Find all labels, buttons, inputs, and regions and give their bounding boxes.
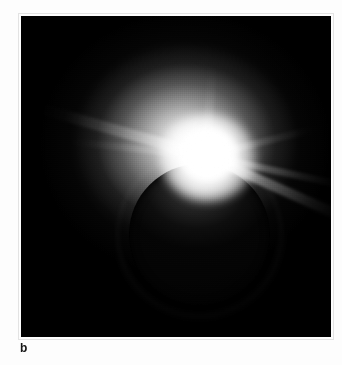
panel-label: b <box>20 341 27 355</box>
eclipse-photograph <box>21 16 331 337</box>
diamond-ring-hotspot <box>179 128 237 180</box>
